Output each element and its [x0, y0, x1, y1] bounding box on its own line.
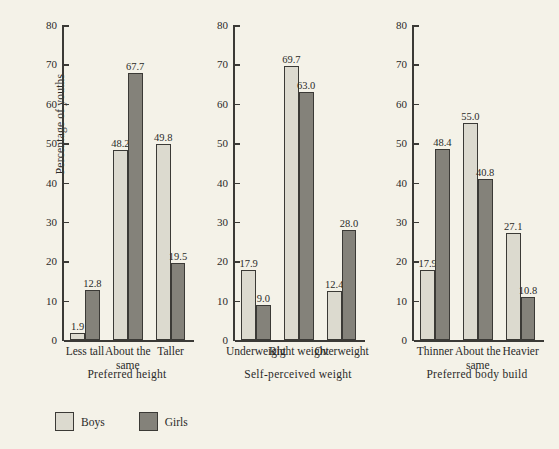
- legend-swatch-girls: [139, 412, 158, 431]
- bar-group: 27.110.8: [499, 25, 542, 340]
- y-tick-label: 50: [396, 137, 407, 149]
- bar-group: 48.267.7: [106, 25, 149, 340]
- bar-value-label: 19.5: [169, 251, 187, 262]
- bar-girls: 28.0: [342, 230, 357, 340]
- bar-boys: 12.4: [327, 291, 342, 340]
- bar-boys: 49.8: [156, 144, 171, 340]
- bar-girls: 48.4: [435, 149, 450, 340]
- bar-group: 1.912.8: [64, 25, 107, 340]
- bar-value-label: 67.7: [126, 61, 144, 72]
- y-tick-label: 20: [396, 255, 407, 267]
- bar-girls: 19.5: [171, 263, 186, 340]
- y-tick-label: 40: [396, 177, 407, 189]
- bar-group: 12.428.0: [320, 25, 363, 340]
- y-tick-label: 60: [217, 98, 228, 110]
- y-tick-label: 30: [396, 216, 407, 228]
- legend-label: Boys: [81, 416, 105, 428]
- legend-item-boys: Boys: [55, 412, 105, 431]
- y-tick-label: 50: [217, 137, 228, 149]
- plot-area: 17.99.069.763.012.428.0: [235, 25, 363, 340]
- y-tick-label: 10: [217, 295, 228, 307]
- bar-value-label: 27.1: [504, 221, 522, 232]
- bar-group: 17.99.0: [235, 25, 278, 340]
- chart-panel-1: 010203040506070801.912.848.267.749.819.5…: [62, 25, 192, 340]
- y-tick-label: 70: [46, 58, 57, 70]
- y-tick-label: 80: [46, 19, 57, 31]
- y-tick-label: 70: [217, 58, 228, 70]
- chart-panel-2: 0102030405060708017.99.069.763.012.428.0…: [233, 25, 363, 340]
- bar-girls: 63.0: [299, 92, 314, 340]
- bar-group: 55.040.8: [456, 25, 499, 340]
- y-tick-label: 40: [46, 177, 57, 189]
- bar-girls: 10.8: [521, 297, 536, 340]
- bar-group: 69.763.0: [277, 25, 320, 340]
- plot-area: 1.912.848.267.749.819.5: [64, 25, 192, 340]
- panel-title: Preferred body build: [372, 368, 559, 380]
- bar-value-label: 49.8: [154, 132, 172, 143]
- bar-boys: 1.9: [70, 333, 85, 340]
- bar-boys: 55.0: [463, 123, 478, 340]
- y-tick-label: 50: [46, 137, 57, 149]
- bar-boys: 17.9: [420, 270, 435, 340]
- y-tick-label: 60: [396, 98, 407, 110]
- x-axis-label: Overweight: [309, 344, 373, 358]
- bar-value-label: 28.0: [340, 218, 358, 229]
- y-tick-label: 20: [217, 255, 228, 267]
- bar-girls: 67.7: [128, 73, 143, 340]
- bar-value-label: 12.8: [83, 278, 101, 289]
- y-tick-label: 10: [396, 295, 407, 307]
- legend-label: Girls: [165, 416, 188, 428]
- bar-girls: 12.8: [85, 290, 100, 340]
- bar-value-label: 55.0: [461, 111, 479, 122]
- bar-value-label: 63.0: [297, 80, 315, 91]
- y-tick-label: 40: [217, 177, 228, 189]
- bar-value-label: 17.9: [239, 258, 257, 269]
- y-tick-label: 30: [46, 216, 57, 228]
- bar-boys: 48.2: [113, 150, 128, 340]
- y-tick-label: 80: [217, 19, 228, 31]
- bar-value-label: 1.9: [71, 321, 84, 332]
- y-tick-label: 30: [217, 216, 228, 228]
- y-tick-label: 70: [396, 58, 407, 70]
- bar-boys: 17.9: [241, 270, 256, 340]
- bar-value-label: 40.8: [476, 167, 494, 178]
- grouped-bar-chart-figure: Percentage of youths BoysGirls 010203040…: [0, 0, 559, 449]
- plot-area: 17.948.455.040.827.110.8: [414, 25, 542, 340]
- legend-swatch-boys: [55, 412, 74, 431]
- bar-value-label: 69.7: [282, 54, 300, 65]
- bar-girls: 9.0: [256, 305, 271, 340]
- bar-boys: 69.7: [284, 66, 299, 340]
- y-tick-label: 10: [46, 295, 57, 307]
- bar-value-label: 48.4: [433, 137, 451, 148]
- bar-group: 49.819.5: [149, 25, 192, 340]
- chart-legend: BoysGirls: [55, 412, 188, 431]
- bar-girls: 40.8: [478, 179, 493, 340]
- bar-value-label: 9.0: [257, 293, 270, 304]
- x-axis-label: Taller: [138, 344, 202, 358]
- bar-value-label: 10.8: [519, 285, 537, 296]
- y-tick-label: 80: [396, 19, 407, 31]
- y-tick-label: 60: [46, 98, 57, 110]
- legend-item-girls: Girls: [139, 412, 188, 431]
- chart-panel-3: 0102030405060708017.948.455.040.827.110.…: [412, 25, 542, 340]
- x-axis-label: Heavier: [488, 344, 552, 358]
- bar-group: 17.948.4: [414, 25, 457, 340]
- y-tick-label: 20: [46, 255, 57, 267]
